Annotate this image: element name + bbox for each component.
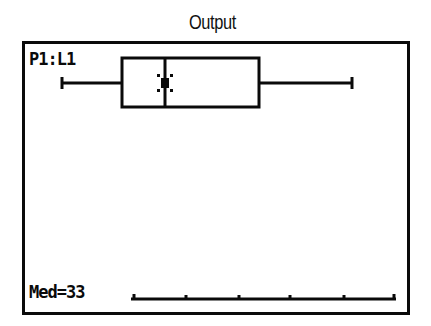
boxplot-graphic [0,0,431,326]
box-and-whisker [62,58,352,107]
x-axis [131,294,396,299]
iqr-box [122,58,259,107]
